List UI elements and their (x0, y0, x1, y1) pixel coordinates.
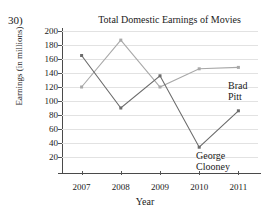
series-label-george-clooney-line2: Clooney (196, 161, 230, 172)
series-label-brad-pitt-line1: Brad (228, 80, 247, 91)
y-tick-label: 40 (49, 138, 58, 148)
data-point (119, 107, 122, 110)
x-tick-label: 2007 (73, 182, 91, 192)
data-point (198, 146, 201, 149)
y-tick-label: 60 (49, 124, 58, 134)
x-tick-mark (160, 171, 161, 175)
x-tick-mark (82, 171, 83, 175)
data-point (198, 67, 201, 70)
x-tick-label: 2009 (151, 182, 169, 192)
y-tick-label: 80 (49, 110, 58, 120)
data-point (80, 54, 83, 57)
y-tick-label: 200 (45, 26, 59, 36)
data-point (237, 109, 240, 112)
x-tick-mark (121, 171, 122, 175)
y-tick-label: 160 (45, 54, 59, 64)
x-tick-label: 2010 (190, 182, 208, 192)
series-label-brad-pitt: Brad Pitt (228, 80, 247, 102)
data-point (237, 66, 240, 69)
chart-figure: 30) Total Domestic Earnings of Movies Ea… (0, 0, 271, 216)
data-point (159, 74, 162, 77)
y-axis-label: Earnings (in millions) (14, 18, 24, 114)
x-tick-label: 2008 (112, 182, 130, 192)
series-label-george-clooney-line1: George (196, 150, 230, 161)
data-point (80, 86, 83, 89)
data-point (119, 39, 122, 42)
series-line-george-clooney (82, 56, 239, 148)
chart-title: Total Domestic Earnings of Movies (72, 14, 267, 25)
y-tick-label: 100 (45, 96, 59, 106)
x-axis-label: Year (60, 196, 230, 207)
x-tick-label: 2011 (230, 182, 248, 192)
y-tick-label: 120 (45, 82, 59, 92)
y-tick-label: 180 (45, 40, 59, 50)
y-tick-label: 20 (49, 152, 58, 162)
y-tick-label: 140 (45, 68, 59, 78)
series-label-george-clooney: George Clooney (196, 150, 230, 172)
x-tick-mark (238, 171, 239, 175)
data-point (159, 86, 162, 89)
series-line-brad-pitt (82, 40, 239, 87)
series-label-brad-pitt-line2: Pitt (228, 91, 247, 102)
